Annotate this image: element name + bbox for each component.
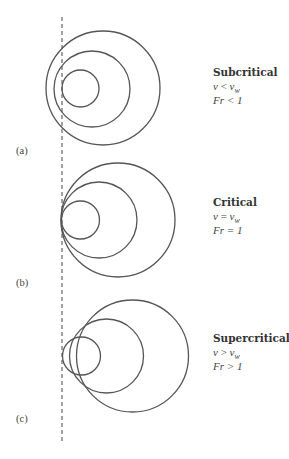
panel-c-supercritical: (c) Supercritical v > vw Fr > 1 xyxy=(16,300,289,425)
wavefront-outer-b xyxy=(61,163,175,277)
velocity-relation-a: v < vw xyxy=(213,80,241,95)
wavefront-inner-b xyxy=(62,201,100,239)
velocity-relation-c: v > vw xyxy=(213,346,241,361)
panel-label-a: (a) xyxy=(16,145,28,157)
wavefront-middle-c xyxy=(70,319,144,393)
wave-regime-diagram: (a) Subcritical v < vw Fr < 1 (b) Critic… xyxy=(0,0,289,459)
panel-label-b: (b) xyxy=(16,277,29,289)
regime-title-a: Subcritical xyxy=(213,66,278,78)
froude-relation-c: Fr > 1 xyxy=(212,360,242,372)
regime-title-b: Critical xyxy=(213,196,257,208)
froude-relation-b: Fr = 1 xyxy=(212,224,242,236)
panel-label-c: (c) xyxy=(16,413,28,425)
wavefront-inner-c xyxy=(63,337,101,375)
wavefront-outer-a xyxy=(46,31,160,145)
regime-title-c: Supercritical xyxy=(213,332,289,344)
panel-a-subcritical: (a) Subcritical v < vw Fr < 1 xyxy=(16,31,278,157)
froude-relation-a: Fr < 1 xyxy=(212,94,242,106)
panel-b-critical: (b) Critical v = vw Fr = 1 xyxy=(16,163,257,289)
wavefront-middle-a xyxy=(54,51,130,127)
wavefront-inner-a xyxy=(62,70,99,107)
wavefront-outer-c xyxy=(77,300,189,412)
velocity-relation-b: v = vw xyxy=(213,210,241,225)
